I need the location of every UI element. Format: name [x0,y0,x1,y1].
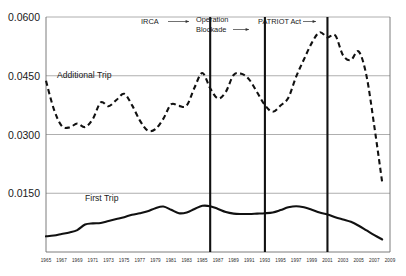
x-tick-label-1989: 1989 [228,258,239,263]
x-tick-label-1971: 1971 [88,258,99,263]
x-tick-label-2007: 2007 [369,258,380,263]
x-tick-label-1997: 1997 [291,258,302,263]
x-tick-label-1973: 1973 [103,258,114,263]
series-label-additional-trip: Additional Trip [57,70,112,80]
x-tick-label-1995: 1995 [275,258,286,263]
x-tick-label-2005: 2005 [353,258,364,263]
series-label-first-trip: First Trip [85,193,119,203]
y-tick-label-2: 0.0300 [8,129,40,141]
x-tick-label-1981: 1981 [166,258,177,263]
y-axis-tick-labels: 0.0600 0.0450 0.0300 0.0150 [8,11,40,199]
x-tick-label-1983: 1983 [181,258,192,263]
annotation-label-operation-blockade-line2: Blockade [196,25,226,34]
x-tick-label-2001: 2001 [322,258,333,263]
y-tick-label-0: 0.0600 [8,11,40,23]
y-tick-label-1: 0.0450 [8,70,40,82]
x-tick-label-2003: 2003 [338,258,349,263]
x-tick-label-1965: 1965 [41,258,52,263]
x-tick-label-1985: 1985 [197,258,208,263]
x-tick-label-1969: 1969 [72,258,83,263]
x-tick-label-1999: 1999 [307,258,318,263]
x-tick-label-1967: 1967 [56,258,67,263]
annotation-label-irca: IRCA [141,17,159,26]
x-tick-label-1991: 1991 [244,258,255,263]
annotation-label-patriot-act: PATRIOT Act [258,17,301,26]
y-tick-label-3: 0.0150 [8,187,40,199]
line-chart: 0.0600 0.0450 0.0300 0.0150 196519671969… [0,0,406,276]
chart-container: 0.0600 0.0450 0.0300 0.0150 196519671969… [0,0,406,276]
x-axis-tick-labels: 1965196719691971197319751977197919811983… [41,258,396,263]
x-tick-label-1975: 1975 [119,258,130,263]
x-tick-label-1977: 1977 [135,258,146,263]
x-tick-label-1987: 1987 [213,258,224,263]
x-tick-label-1979: 1979 [150,258,161,263]
x-tick-label-2009: 2009 [385,258,396,263]
x-tick-label-1993: 1993 [260,258,271,263]
annotation-label-operation-blockade-line1: Operation [196,15,228,24]
